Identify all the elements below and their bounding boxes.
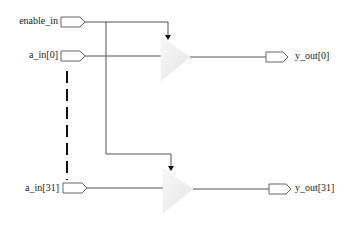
buffer-31[interactable] bbox=[163, 169, 193, 213]
a-in-0-port[interactable] bbox=[61, 51, 85, 61]
y-out-0-label: y_out[0] bbox=[295, 50, 329, 62]
buffer-0[interactable] bbox=[161, 37, 190, 81]
a-in-31-label: a_in[31] bbox=[0, 182, 59, 194]
enable-arrow-top bbox=[165, 35, 171, 40]
a-in-31-port[interactable] bbox=[63, 183, 87, 193]
enable-in-port[interactable] bbox=[61, 17, 85, 27]
a-in-0-label: a_in[0] bbox=[0, 49, 58, 61]
enable-wire bbox=[85, 22, 168, 36]
y-out-31-port[interactable] bbox=[269, 184, 291, 194]
y-out-31-label: y_out[31] bbox=[295, 182, 334, 194]
enable-arrow-bottom bbox=[168, 166, 174, 171]
enable-in-label: enable_in bbox=[0, 15, 58, 27]
y-out-0-port[interactable] bbox=[266, 52, 288, 62]
